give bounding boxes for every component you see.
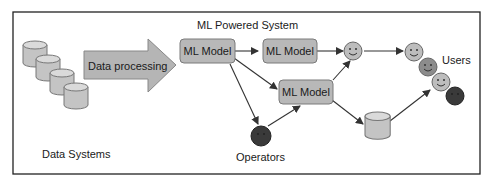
ml-model-2: ML Model (263, 39, 317, 63)
users-label: Users (442, 54, 471, 66)
system-title: ML Powered System (197, 19, 298, 31)
storage-database-icon (365, 112, 390, 139)
ml-model-3: ML Model (279, 80, 333, 104)
operators-label: Operators (236, 151, 285, 163)
database-icon (64, 83, 88, 109)
svg-text:ML Model: ML Model (266, 45, 314, 57)
user-face-icon (432, 73, 450, 91)
user-face-icon (446, 87, 464, 105)
user-face-icon (419, 58, 437, 76)
operator-face-icon (251, 126, 271, 146)
user-face-icon (405, 43, 423, 61)
data-processing-label: Data processing (88, 60, 168, 72)
data-systems-label: Data Systems (42, 148, 111, 160)
user-face-icon (344, 42, 362, 60)
ml-model-1: ML Model (180, 39, 235, 63)
svg-text:ML Model: ML Model (282, 86, 330, 98)
diagram-canvas: Data Systems Data processing ML Powered … (0, 0, 489, 186)
svg-text:ML Model: ML Model (184, 45, 232, 57)
